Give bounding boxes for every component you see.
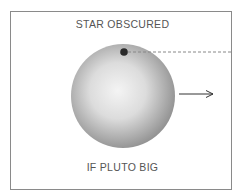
pluto-sphere bbox=[71, 44, 175, 148]
star-dot bbox=[120, 48, 128, 56]
if-pluto-big-label: IF PLUTO BIG bbox=[0, 161, 245, 173]
